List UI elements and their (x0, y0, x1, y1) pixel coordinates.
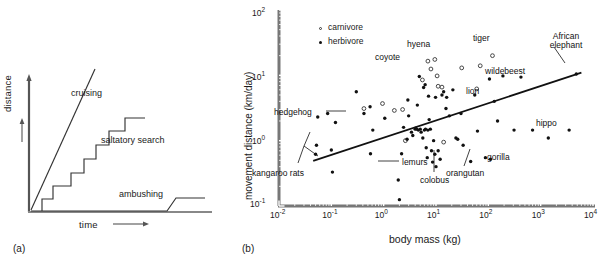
curve-label-saltatory-search: saltatory search (101, 136, 165, 146)
annotation-wildebeest: wildebeest (485, 66, 525, 76)
data-point-carnivore (436, 84, 440, 88)
data-point-herbivore (433, 153, 436, 156)
data-point-herbivore (440, 93, 443, 96)
data-point-carnivore (401, 108, 405, 112)
data-point-carnivore (433, 58, 437, 62)
data-point-herbivore (368, 105, 371, 108)
panel-b-y-axis-label: movement distance (km/day) (243, 72, 254, 200)
data-point-herbivore (444, 107, 447, 110)
data-point-herbivore (419, 130, 422, 133)
annotation-hippo: hippo (536, 118, 557, 128)
y-tick-label-minus1: 10-1 (250, 199, 265, 209)
data-point-herbivore (427, 118, 430, 121)
data-point-herbivore (330, 148, 333, 151)
annotation-orangutan: orangutan (446, 168, 484, 178)
data-point-herbivore (456, 138, 459, 141)
x-tick-label-2: 100 (375, 210, 388, 220)
data-point-herbivore (423, 83, 426, 86)
panel-b-tag: (b) (242, 243, 254, 254)
x-tick-exp-2: 0 (384, 208, 388, 215)
data-point-herbivore (400, 152, 403, 155)
curve-label-cruising: cruising (71, 89, 102, 99)
data-point-herbivore (315, 144, 318, 147)
x-tick-exp-3: 1 (436, 208, 440, 215)
data-point-herbivore (432, 139, 435, 142)
data-point-herbivore (427, 94, 430, 97)
panel-b-x-axis-label: body mass (kg) (389, 233, 461, 245)
data-point-carnivore (478, 64, 482, 68)
data-point-herbivore (459, 112, 462, 115)
x-tick-label-0: 10-2 (270, 210, 285, 220)
data-point-carnivore (392, 109, 396, 113)
data-point-carnivore (362, 107, 366, 111)
data-point-herbivore (442, 90, 445, 93)
data-point-herbivore (445, 96, 448, 99)
x-tick-label-4: 102 (479, 210, 492, 220)
data-point-herbivore (416, 103, 419, 106)
x-tick-exp-5: 3 (541, 208, 545, 215)
legend-label-herbivore: herbivore (328, 36, 363, 46)
data-point-herbivore (429, 127, 432, 130)
data-point-carnivore (426, 59, 430, 63)
panel-a-distance-arrowhead (20, 118, 25, 124)
curve-label-ambushing: ambushing (119, 190, 163, 200)
data-point-carnivore (381, 102, 385, 106)
annotation-lemurs: lemurs (402, 157, 428, 167)
data-point-herbivore (434, 96, 437, 99)
x-tick-exp-4: 2 (489, 208, 493, 215)
data-point-carnivore (442, 140, 446, 144)
data-point-herbivore (493, 100, 496, 103)
panel-a-tag: (a) (13, 243, 25, 254)
data-point-herbivore (398, 198, 401, 201)
annotation-hyena: hyena (407, 39, 430, 49)
data-point-herbivore (531, 128, 534, 131)
data-point-carnivore (491, 54, 495, 58)
data-point-herbivore (434, 165, 437, 168)
data-point-herbivore (425, 146, 428, 149)
data-point-herbivore (397, 178, 400, 181)
data-point-herbivore (438, 158, 441, 161)
data-point-herbivore (476, 129, 479, 132)
data-point-herbivore (431, 160, 434, 163)
data-point-herbivore (430, 149, 433, 152)
annotation-leader (464, 149, 470, 166)
panel-b-trendline (313, 73, 581, 161)
data-point-herbivore (419, 127, 422, 130)
data-point-carnivore (429, 67, 433, 71)
data-point-herbivore (405, 138, 408, 141)
data-point-herbivore (488, 77, 491, 80)
y-tick-exp-2: 2 (261, 6, 265, 13)
data-point-herbivore (436, 149, 439, 152)
data-point-herbivore (451, 88, 454, 91)
data-point-herbivore (411, 134, 414, 137)
annotation-gorilla: gorilla (487, 152, 510, 162)
data-point-carnivore (435, 74, 439, 78)
data-point-herbivore (469, 160, 472, 163)
data-point-herbivore (547, 136, 550, 139)
data-point-carnivore (421, 78, 425, 82)
curve-ambushing (31, 198, 205, 211)
data-point-herbivore (334, 121, 337, 124)
annotation-kangaroo-rats: kangaroo rats (252, 168, 304, 178)
data-point-herbivore (567, 128, 570, 131)
data-point-carnivore (440, 85, 444, 89)
x-tick-label-1: 10-1 (322, 210, 337, 220)
y-tick-label-2: 102 (252, 8, 265, 18)
x-tick-exp-0: -2 (279, 208, 285, 215)
x-tick-exp-6: 4 (593, 208, 597, 215)
panel-b: 102 101 100 10-1 10-2 10-1 100 101 102 1… (238, 0, 610, 276)
data-point-herbivore (575, 72, 578, 75)
panel-a-x-axis-label: time (79, 219, 98, 230)
data-point-herbivore (461, 144, 464, 147)
panel-a-y-arrowhead (26, 74, 31, 81)
panel-a-y-axis-label: distance (2, 75, 13, 112)
panel-a-time-arrowhead (143, 222, 149, 227)
data-point-herbivore (407, 114, 410, 117)
y-tick-exp-0: 0 (261, 134, 265, 141)
x-tick-label-5: 103 (532, 210, 545, 220)
data-point-herbivore (314, 153, 317, 156)
annotation-tiger: tiger (473, 33, 490, 43)
data-point-herbivore (448, 114, 451, 117)
data-point-herbivore (418, 75, 421, 78)
annotation-colobus: colobus (420, 175, 449, 185)
